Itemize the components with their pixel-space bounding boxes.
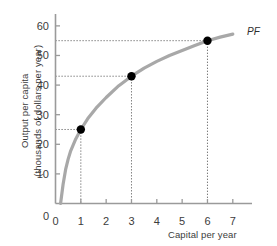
- production-function-curve: [61, 34, 233, 203]
- y-tick-label-4: 40: [26, 80, 49, 91]
- x-tick-label-2: 2: [103, 216, 109, 227]
- x-axis-title: Capital per year: [168, 229, 237, 240]
- data-point-marker-2: [203, 36, 211, 44]
- data-point-marker-0: [77, 125, 85, 133]
- y-tick-label-0: 0: [26, 210, 49, 221]
- y-tick-label-3: 30: [26, 109, 49, 120]
- x-tick-label-6: 6: [204, 216, 210, 227]
- x-tick-label-4: 4: [154, 216, 160, 227]
- data-point-marker-1: [127, 72, 135, 80]
- y-tick-label-2: 20: [26, 139, 49, 150]
- x-tick-label-1: 1: [78, 216, 84, 227]
- x-tick-label-3: 3: [128, 216, 134, 227]
- y-tick-label-6: 60: [26, 20, 49, 31]
- y-tick-label-5: 50: [26, 50, 49, 61]
- x-tick-label-7: 7: [230, 216, 236, 227]
- y-tick-label-1: 10: [26, 168, 49, 179]
- production-function-chart: Output per capita (thousands of dollars …: [0, 0, 277, 246]
- curve-label-pf: PF: [247, 26, 260, 37]
- x-tick-label-5: 5: [179, 216, 185, 227]
- x-tick-label-0: 0: [52, 216, 58, 227]
